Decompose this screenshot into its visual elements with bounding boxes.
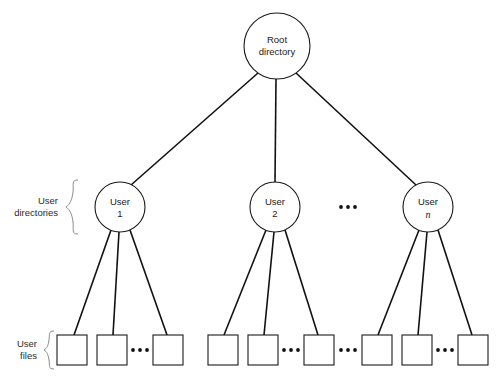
user-n-circle [403,182,453,232]
edge-user-2-file-1 [224,230,266,335]
user-2-label-line2: 2 [272,208,277,219]
file-box[interactable] [153,335,183,365]
edge-user-1-file-2 [113,232,119,335]
user-1-file-boxes [57,335,183,365]
user-2-label-line1: User [265,196,285,207]
user-directories-annotation: User directories [14,180,78,234]
file-box[interactable] [362,335,392,365]
user-files-brace [44,331,54,369]
user-n-label-line1: User [418,196,438,207]
user-files-label-line1: User [17,338,37,349]
file-box[interactable] [57,335,87,365]
user-n-file-boxes [362,335,488,365]
user-n-files-ellipsis [436,348,454,352]
user-2-to-file-edges [224,230,318,335]
user-directories-label-line2: directories [14,207,58,218]
user-2-circle [250,182,300,232]
edge-user-2-file-2 [264,232,274,335]
file-groups-separator-ellipsis [339,348,357,352]
file-box[interactable] [402,335,432,365]
edge-user-2-file-3 [285,230,318,335]
root-directory-label-line2: directory [259,46,296,57]
directory-structure-diagram: Root directory User 1 User 2 User n [0,0,501,384]
user-directory-node-1[interactable]: User 1 [95,182,145,232]
edge-user-n-file-3 [438,230,472,335]
user-1-to-file-edges [74,230,167,335]
edge-root-to-user-1 [131,73,258,185]
user-files-label-line2: files [20,350,37,361]
edge-user-1-file-3 [130,230,167,335]
edge-user-n-file-2 [418,232,427,335]
edge-user-1-file-1 [74,230,111,335]
root-to-user-edges [131,73,416,185]
root-directory-node[interactable]: Root directory [244,13,310,79]
file-box[interactable] [248,335,278,365]
user-directory-node-n[interactable]: User n [403,182,453,232]
root-directory-label-line1: Root [267,34,287,45]
file-box[interactable] [458,335,488,365]
file-box[interactable] [208,335,238,365]
user-directories-label-line1: User [38,195,58,206]
user-1-files-ellipsis [131,348,149,352]
file-box[interactable] [304,335,334,365]
edge-root-to-user-2 [275,79,276,182]
diagram-canvas: Root directory User 1 User 2 User n [0,0,501,384]
user-n-label-line2: n [426,209,431,220]
user-files-annotation: User files [17,331,54,369]
user-1-label-line2: 1 [117,208,122,219]
file-box[interactable] [97,335,127,365]
user-2-files-ellipsis [282,348,300,352]
edge-user-n-file-1 [378,230,419,335]
user-n-to-file-edges [378,230,472,335]
user-directories-ellipsis [339,205,357,209]
user-2-file-boxes [208,335,334,365]
user-1-circle [95,182,145,232]
edge-root-to-user-n [296,73,416,185]
user-directory-node-2[interactable]: User 2 [250,182,300,232]
user-1-label-line1: User [110,196,130,207]
user-directories-brace [66,180,78,234]
